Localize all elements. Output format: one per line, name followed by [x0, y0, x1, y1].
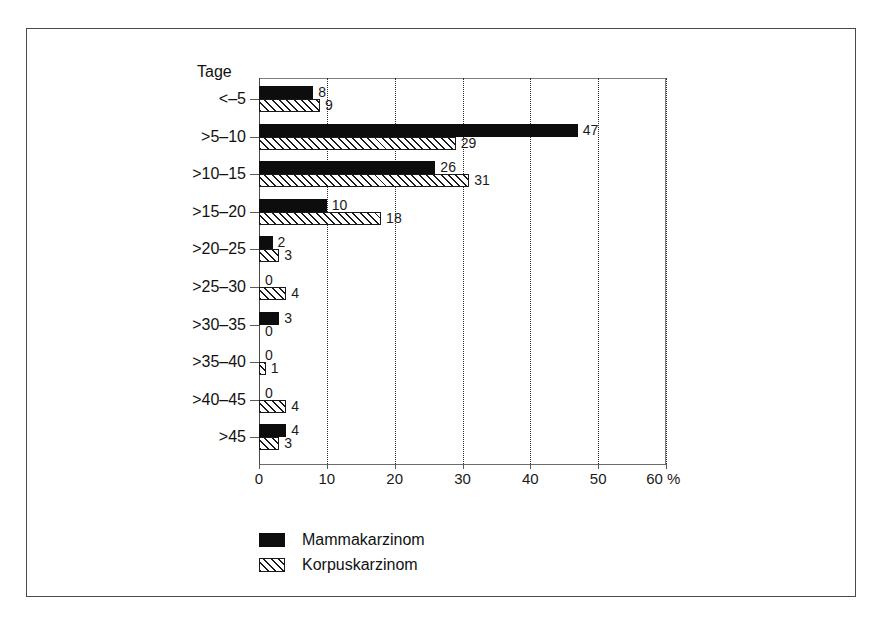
bar-2->35-40	[259, 362, 266, 375]
category-label-<-5: <–5	[219, 90, 246, 108]
x-tick-label-10: 10	[318, 470, 335, 487]
bar-1-<-5	[259, 86, 313, 99]
bar-2-<-5	[259, 99, 320, 112]
bar-value-label: 4	[291, 400, 299, 413]
bar-2->25-30	[259, 287, 286, 300]
bar-1->45	[259, 424, 286, 437]
y-tick->30-35	[250, 325, 259, 326]
legend-item-1: Mammakarzinom	[259, 527, 425, 552]
chart-legend: MammakarzinomKorpuskarzinom	[259, 527, 425, 577]
category-row: 04>40–45	[259, 382, 666, 420]
y-tick-<-5	[250, 99, 259, 100]
gridline-60	[666, 78, 667, 464]
bar-value-label: 26	[440, 161, 456, 174]
category-label->40-45: >40–45	[192, 391, 246, 409]
bar-1->5-10	[259, 124, 578, 137]
bar-2->20-25	[259, 249, 279, 262]
y-tick->45	[250, 437, 259, 438]
bar-value-label: 9	[325, 99, 333, 112]
bar-value-label: 3	[284, 249, 292, 262]
bar-1->10-15	[259, 161, 435, 174]
category-label->35-40: >35–40	[192, 353, 246, 371]
bar-2->45	[259, 437, 279, 450]
y-tick->40-45	[250, 400, 259, 401]
x-tick-label-20: 20	[386, 470, 403, 487]
bar-1->15-20	[259, 199, 327, 212]
x-tick-60	[666, 464, 667, 469]
x-tick-label-50: 50	[590, 470, 607, 487]
category-label->5-10: >5–10	[201, 128, 246, 146]
category-row: 23>20–25	[259, 231, 666, 269]
category-label->30-35: >30–35	[192, 316, 246, 334]
bar-value-label: 47	[583, 124, 599, 137]
x-tick-20	[395, 464, 396, 469]
bar-2->5-10	[259, 137, 456, 150]
category-label->25-30: >25–30	[192, 278, 246, 296]
bar-value-label: 10	[332, 199, 348, 212]
x-tick-label-40: 40	[522, 470, 539, 487]
bar-2->15-20	[259, 212, 381, 225]
axis-title-tage: Tage	[197, 63, 232, 81]
y-tick->5-10	[250, 137, 259, 138]
category-row: 89<–5	[259, 81, 666, 119]
bar-value-label: 1	[271, 362, 279, 375]
x-tick-label-60: 60 %	[646, 470, 680, 487]
category-row: 1018>15–20	[259, 194, 666, 232]
bar-1->20-25	[259, 236, 273, 249]
bar-value-label: 31	[474, 174, 490, 187]
category-row: 2631>10–15	[259, 156, 666, 194]
category-label->45: >45	[219, 428, 246, 446]
figure-frame: Tage 89<–54729>5–102631>10–151018>15–202…	[26, 28, 856, 597]
bar-value-label: 3	[284, 312, 292, 325]
bar-value-label: 29	[461, 137, 477, 150]
bar-value-label: 4	[291, 287, 299, 300]
bar-value-label: 0	[265, 274, 273, 287]
x-tick-50	[598, 464, 599, 469]
category-row: 01>35–40	[259, 344, 666, 382]
legend-label-1: Mammakarzinom	[302, 531, 425, 549]
legend-label-2: Korpuskarzinom	[302, 556, 418, 574]
x-tick-10	[327, 464, 328, 469]
bar-2->10-15	[259, 174, 469, 187]
y-tick->25-30	[250, 287, 259, 288]
category-row: 04>25–30	[259, 269, 666, 307]
x-tick-40	[530, 464, 531, 469]
legend-swatch-1	[259, 533, 285, 547]
category-label->20-25: >20–25	[192, 240, 246, 258]
x-tick-0	[259, 464, 260, 469]
x-tick-30	[463, 464, 464, 469]
category-label->10-15: >10–15	[192, 165, 246, 183]
bar-2->40-45	[259, 400, 286, 413]
y-tick->20-25	[250, 249, 259, 250]
y-tick->10-15	[250, 174, 259, 175]
bar-value-label: 0	[265, 387, 273, 400]
y-tick->35-40	[250, 362, 259, 363]
y-tick->15-20	[250, 212, 259, 213]
bar-value-label: 3	[284, 437, 292, 450]
x-tick-label-0: 0	[255, 470, 263, 487]
category-row: 30>30–35	[259, 307, 666, 345]
x-tick-label-30: 30	[454, 470, 471, 487]
bar-value-label: 4	[291, 424, 299, 437]
bar-value-label: 18	[386, 212, 402, 225]
legend-item-2: Korpuskarzinom	[259, 552, 425, 577]
category-label->15-20: >15–20	[192, 203, 246, 221]
plot-area: 89<–54729>5–102631>10–151018>15–2023>20–…	[259, 78, 666, 464]
category-row: 43>45	[259, 419, 666, 457]
bar-value-label: 0	[265, 325, 273, 338]
legend-swatch-2	[259, 558, 285, 572]
category-row: 4729>5–10	[259, 119, 666, 157]
